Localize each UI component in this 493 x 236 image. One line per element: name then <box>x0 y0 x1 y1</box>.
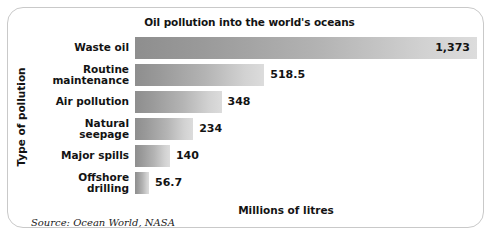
bar-natural-seepage <box>135 118 193 140</box>
bar-row: Waste oil 1,373 <box>30 37 477 59</box>
category-label-waste-oil: Waste oil <box>30 42 135 54</box>
bar-row: Major spills 140 <box>30 145 477 167</box>
bar-plot-area: Waste oil 1,373 Routine maintenance 518.… <box>30 37 477 202</box>
chart-frame: Oil pollution into the world's oceans Ty… <box>7 7 484 228</box>
y-axis-title: Type of pollution <box>10 34 32 199</box>
bar-value-routine-maintenance: 518.5 <box>264 64 305 86</box>
category-label-line1: Waste oil <box>74 41 129 53</box>
chart-title: Oil pollution into the world's oceans <box>8 16 483 28</box>
category-label-routine-maintenance: Routine maintenance <box>30 64 135 87</box>
category-label-line2: drilling <box>30 183 129 195</box>
category-label-line1: Offshore <box>78 171 129 183</box>
bar-row: Air pollution 348 <box>30 91 477 113</box>
category-label-line1: Major spills <box>61 149 129 161</box>
bar-track: 234 <box>135 118 477 140</box>
bar-waste-oil <box>135 37 477 59</box>
bar-offshore-drilling <box>135 172 149 194</box>
bar-value-waste-oil: 1,373 <box>435 37 477 59</box>
bar-air-pollution <box>135 91 222 113</box>
bar-track: 348 <box>135 91 477 113</box>
category-label-line1: Routine <box>83 63 129 75</box>
bar-value-natural-seepage: 234 <box>193 118 222 140</box>
bar-track: 140 <box>135 145 477 167</box>
bar-value-air-pollution: 348 <box>222 91 251 113</box>
bar-track: 1,373 <box>135 37 477 59</box>
bar-major-spills <box>135 145 170 167</box>
category-label-line2: seepage <box>30 129 129 141</box>
bar-value-major-spills: 140 <box>170 145 199 167</box>
category-label-natural-seepage: Natural seepage <box>30 118 135 141</box>
bar-track: 518.5 <box>135 64 477 86</box>
category-label-offshore-drilling: Offshore drilling <box>30 172 135 195</box>
category-label-line1: Natural <box>85 117 129 129</box>
bar-row: Natural seepage 234 <box>30 118 477 140</box>
source-note: Source: Ocean World, NASA <box>31 217 175 228</box>
category-label-line2: maintenance <box>30 75 129 87</box>
bar-value-offshore-drilling: 56.7 <box>149 172 182 194</box>
category-label-line1: Air pollution <box>56 95 129 107</box>
bar-row: Offshore drilling 56.7 <box>30 172 477 194</box>
x-axis-title: Millions of litres <box>136 204 436 216</box>
y-axis-title-label: Type of pollution <box>15 67 27 166</box>
category-label-major-spills: Major spills <box>30 150 135 162</box>
bar-row: Routine maintenance 518.5 <box>30 64 477 86</box>
category-label-air-pollution: Air pollution <box>30 96 135 108</box>
bar-routine-maintenance <box>135 64 264 86</box>
bar-track: 56.7 <box>135 172 477 194</box>
